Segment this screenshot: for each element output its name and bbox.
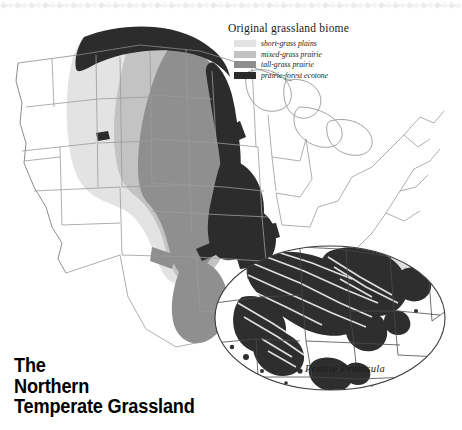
legend-label-mixed-grass: mixed-grass prairie <box>261 50 322 59</box>
inset-caption: Prairie Peninsula <box>270 363 420 374</box>
legend-item-ecotone: prairie-forest ecotone <box>234 71 378 80</box>
figure-title-line-3: Temperate Grassland <box>14 396 247 417</box>
legend-label-tall-grass: tall-grass prairie <box>261 60 314 69</box>
figure-title-line-2: Northern <box>14 376 247 397</box>
legend-item-short-grass: short-grass plains <box>234 39 378 48</box>
figure-title-line-1: The <box>14 355 247 376</box>
legend-items: short-grass plains mixed-grass prairie t… <box>234 39 378 80</box>
figure-title: The Northern Temperate Grassland <box>14 355 247 417</box>
legend-swatch-tall-grass <box>234 61 256 68</box>
legend-title: Original grassland biome <box>228 22 378 34</box>
ornament-border <box>0 0 462 11</box>
legend-label-ecotone: prairie-forest ecotone <box>261 71 328 80</box>
legend: Original grassland biome short-grass pla… <box>228 22 378 81</box>
figure-page: Original grassland biome short-grass pla… <box>0 0 462 430</box>
legend-label-short-grass: short-grass plains <box>261 39 317 48</box>
legend-swatch-mixed-grass <box>234 51 256 58</box>
legend-item-tall-grass: tall-grass prairie <box>234 60 378 69</box>
legend-item-mixed-grass: mixed-grass prairie <box>234 50 378 59</box>
legend-swatch-ecotone <box>234 72 256 79</box>
legend-swatch-short-grass <box>234 40 256 47</box>
